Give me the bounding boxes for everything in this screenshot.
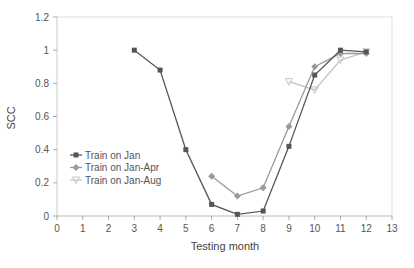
series-train-on-jan-aug [285, 49, 369, 94]
data-point [364, 49, 369, 54]
x-axis: 012345678910111213 [54, 216, 398, 234]
legend-item: Train on Jan [70, 150, 140, 161]
data-point [312, 73, 317, 78]
line-chart: 00.20.40.60.811.2 012345678910111213 SCC… [0, 0, 414, 268]
square-marker-icon [74, 153, 79, 158]
legend: Train on JanTrain on Jan-AprTrain on Jan… [70, 150, 161, 186]
y-axis-title: SCC [5, 106, 17, 129]
data-point [209, 202, 214, 207]
x-tick-label: 5 [183, 223, 189, 234]
y-tick-label: 0.8 [35, 78, 49, 89]
legend-label: Train on Jan-Aug [85, 175, 161, 186]
x-tick-label: 7 [235, 223, 241, 234]
y-tick-label: 0.2 [35, 177, 49, 188]
y-tick-label: 1 [43, 45, 49, 56]
x-tick-label: 8 [260, 223, 266, 234]
data-point [261, 209, 266, 214]
legend-label: Train on Jan [85, 150, 140, 161]
y-axis: 00.20.40.60.811.2 [35, 12, 57, 222]
x-tick-label: 12 [361, 223, 373, 234]
data-point [286, 144, 291, 149]
data-point [285, 123, 292, 130]
x-tick-label: 6 [209, 223, 215, 234]
y-tick-label: 0 [43, 211, 49, 222]
data-point [260, 184, 267, 191]
x-tick-label: 9 [286, 223, 292, 234]
x-tick-label: 10 [309, 223, 321, 234]
y-tick-label: 0.6 [35, 111, 49, 122]
x-tick-label: 2 [106, 223, 112, 234]
data-point [183, 147, 188, 152]
data-point [132, 48, 137, 53]
data-point [158, 68, 163, 73]
legend-item: Train on Jan-Apr [70, 162, 160, 173]
y-tick-label: 1.2 [35, 12, 49, 23]
data-point [311, 63, 318, 70]
x-tick-label: 4 [157, 223, 163, 234]
x-axis-title: Testing month [191, 240, 259, 252]
diamond-marker-icon [73, 164, 80, 171]
x-tick-label: 3 [132, 223, 138, 234]
legend-item: Train on Jan-Aug [70, 175, 161, 186]
x-tick-label: 13 [386, 223, 398, 234]
legend-label: Train on Jan-Apr [85, 162, 160, 173]
data-point [338, 48, 343, 53]
series-train-on-jan-apr [208, 50, 370, 200]
series-layer [132, 48, 370, 217]
x-tick-label: 11 [335, 223, 346, 234]
x-tick-label: 1 [80, 223, 86, 234]
data-point [235, 212, 240, 217]
y-tick-label: 0.4 [35, 144, 49, 155]
x-tick-label: 0 [54, 223, 60, 234]
